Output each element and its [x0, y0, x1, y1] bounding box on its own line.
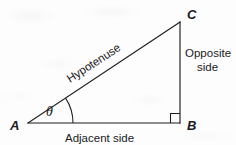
side-label-opposite-line2: side	[197, 61, 218, 73]
triangle-figure-svg: A B C θ Hypotenuse Adjacent side Opposit…	[0, 0, 236, 145]
vertex-label-c: C	[187, 7, 197, 22]
angle-theta-label: θ	[46, 104, 53, 119]
vertex-label-b: B	[187, 118, 196, 133]
side-label-hypotenuse: Hypotenuse	[65, 41, 123, 84]
right-angle-marker-icon	[171, 114, 181, 124]
side-label-adjacent: Adjacent side	[65, 132, 134, 144]
triangle-diagram: A B C θ Hypotenuse Adjacent side Opposit…	[0, 0, 236, 145]
side-label-opposite-line1: Opposite	[185, 47, 231, 59]
vertex-label-a: A	[9, 118, 19, 133]
angle-arc	[66, 98, 73, 123]
